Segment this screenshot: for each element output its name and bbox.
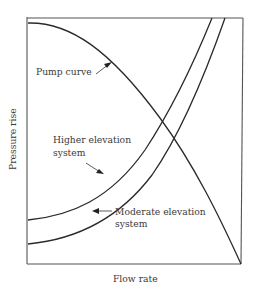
moderate-system-pointer (92, 208, 112, 214)
higher-system-pointer (86, 163, 104, 174)
x-axis-label: Flow rate (113, 273, 158, 284)
pump-curve-label: Pump curve (36, 66, 92, 77)
right-frame-line (241, 18, 243, 264)
higher-elevation-label-line1: Higher elevation (53, 134, 131, 145)
higher-elevation-label-line2: system (53, 147, 86, 158)
pump-system-diagram: Pump curve Higher elevation system Moder… (0, 0, 255, 289)
moderate-elevation-label-line1: Moderate elevation (115, 206, 206, 217)
moderate-elevation-label-line2: system (115, 218, 148, 229)
pump-curve-pointer (96, 62, 112, 74)
y-axis-label: Pressure rise (7, 108, 18, 170)
